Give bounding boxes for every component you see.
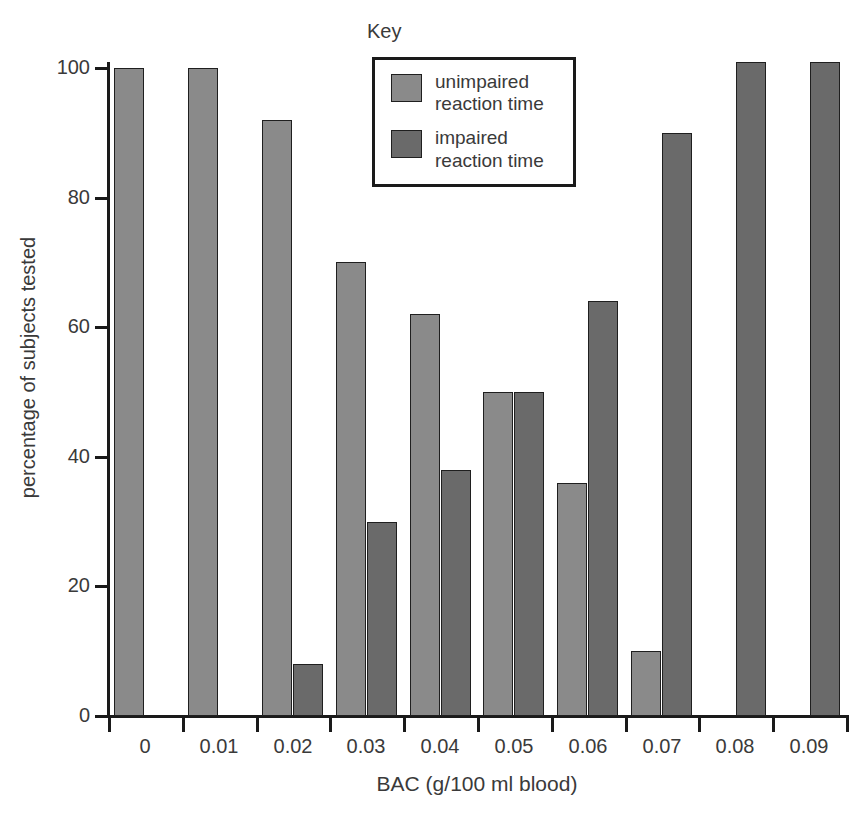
x-axis-title: BAC (g/100 ml blood) xyxy=(108,772,846,796)
x-tick-mark xyxy=(551,718,554,732)
y-tick-label: 80 xyxy=(32,187,90,207)
bar-impaired-0.03 xyxy=(367,522,397,716)
x-tick-mark xyxy=(846,718,849,732)
y-tick-mark xyxy=(95,456,108,459)
x-tick-mark xyxy=(329,718,332,732)
bar-impaired-0.09 xyxy=(810,62,840,716)
x-tick-mark xyxy=(403,718,406,732)
y-tick-mark xyxy=(95,585,108,588)
bar-unimpaired-0.07 xyxy=(631,651,661,716)
x-tick-label: 0.09 xyxy=(764,736,854,756)
bar-unimpaired-0 xyxy=(114,68,144,716)
y-tick-mark xyxy=(95,67,108,70)
y-tick-label-text: 100 xyxy=(44,57,90,77)
y-tick-mark xyxy=(95,715,108,718)
x-tick-mark xyxy=(108,718,111,732)
y-tick-label-text: 20 xyxy=(44,575,90,595)
bar-impaired-0.04 xyxy=(441,470,471,716)
bar-unimpaired-0.04 xyxy=(410,314,440,716)
y-tick-label: 100 xyxy=(32,57,90,77)
y-tick-label-text: 40 xyxy=(44,446,90,466)
bar-unimpaired-0.03 xyxy=(336,262,366,716)
bar-impaired-0.08 xyxy=(736,62,766,716)
x-tick-mark xyxy=(772,718,775,732)
bar-unimpaired-0.02 xyxy=(262,120,292,716)
x-tick-mark xyxy=(477,718,480,732)
page-edge-artifact xyxy=(0,828,858,840)
y-axis-title: percentage of subjects tested xyxy=(17,78,40,658)
bar-impaired-0.06 xyxy=(588,301,618,716)
bar-unimpaired-0.01 xyxy=(188,68,218,716)
plot-area xyxy=(108,40,846,716)
y-tick-label-text: 60 xyxy=(44,316,90,336)
x-tick-mark xyxy=(698,718,701,732)
x-tick-mark xyxy=(182,718,185,732)
y-tick-mark xyxy=(95,197,108,200)
x-tick-mark xyxy=(256,718,259,732)
bar-unimpaired-0.05 xyxy=(483,392,513,716)
bar-unimpaired-0.06 xyxy=(557,483,587,716)
bar-impaired-0.05 xyxy=(514,392,544,716)
y-tick-label-text: 80 xyxy=(44,187,90,207)
bar-impaired-0.02 xyxy=(293,664,323,716)
y-tick-label: 0 xyxy=(32,705,90,725)
x-tick-mark xyxy=(625,718,628,732)
y-tick-label: 20 xyxy=(32,575,90,595)
bar-chart: Key unimpaired reaction time impaired re… xyxy=(0,0,858,840)
y-tick-label: 60 xyxy=(32,316,90,336)
y-tick-label-text: 0 xyxy=(44,705,90,725)
bar-impaired-0.07 xyxy=(662,133,692,716)
y-tick-label: 40 xyxy=(32,446,90,466)
y-tick-mark xyxy=(95,326,108,329)
